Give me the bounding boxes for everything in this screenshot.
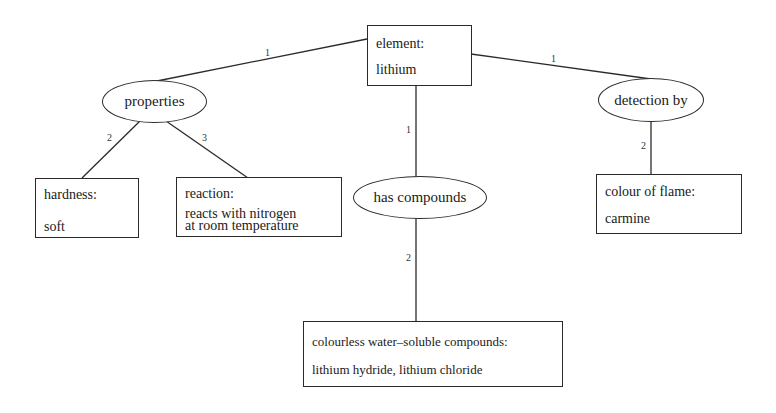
node-compounds: colourless water–soluble compounds: lith…: [303, 321, 563, 387]
node-value: soft: [44, 219, 65, 235]
node-value-line2: at room temperature: [185, 218, 299, 234]
node-title: hardness:: [44, 187, 97, 203]
edge-label: 1: [551, 53, 556, 64]
node-detection-by: detection by: [598, 78, 704, 122]
edge-element-properties: [157, 39, 367, 81]
node-value: lithium hydride, lithium chloride: [312, 362, 482, 378]
node-label: detection by: [614, 92, 688, 109]
node-colour-of-flame: colour of flame: carmine: [596, 174, 742, 234]
node-title: colour of flame:: [605, 184, 695, 200]
node-element: element: lithium: [367, 25, 472, 86]
edge-label: 2: [406, 252, 411, 263]
edge-properties-reaction: [166, 121, 248, 178]
node-reaction: reaction: reacts with nitrogen at room t…: [176, 177, 342, 237]
edge-label: 2: [107, 132, 112, 143]
edge-label: 1: [265, 47, 270, 58]
node-hardness: hardness: soft: [35, 178, 139, 238]
edge-element-detection: [471, 54, 651, 79]
node-value: carmine: [605, 211, 650, 227]
node-title: element:: [376, 36, 424, 52]
node-label: properties: [125, 93, 185, 110]
edge-properties-hardness: [82, 121, 140, 178]
node-title: colourless water–soluble compounds:: [312, 334, 508, 350]
edge-label: 3: [202, 132, 207, 143]
semantic-network-diagram: 1 1 1 2 3 2 2 element: lithium propertie…: [0, 0, 776, 413]
node-has-compounds: has compounds: [353, 176, 487, 219]
edge-label: 2: [641, 140, 646, 151]
edge-label: 1: [406, 124, 411, 135]
node-label: has compounds: [374, 189, 467, 206]
node-value: lithium: [376, 62, 416, 78]
node-title: reaction:: [185, 186, 234, 202]
node-properties: properties: [102, 80, 207, 123]
